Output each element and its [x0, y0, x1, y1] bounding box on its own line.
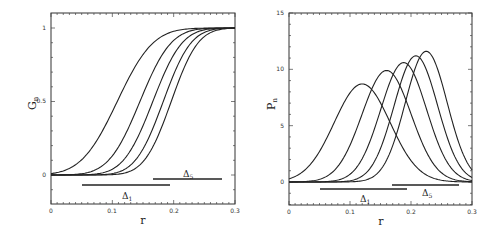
left-ytick-0: 0	[42, 171, 46, 178]
left-curve-4	[51, 28, 235, 175]
right-xtick-0.3: 0.3	[467, 208, 477, 215]
left-curve-5	[51, 28, 235, 175]
right-xtick-0: 0	[287, 208, 291, 215]
left-xtick-0.2: 0.2	[169, 207, 179, 214]
left-delta5-label: Δ5	[183, 169, 194, 180]
right-delta1-label: Δ1	[360, 194, 370, 205]
right-curve-5	[289, 51, 472, 182]
left-curve-2	[51, 28, 235, 175]
left-curve-1	[51, 28, 235, 174]
right-ytick-0: 0	[280, 178, 284, 185]
left-curves	[51, 28, 235, 175]
left-ylabel: Gn	[26, 96, 40, 110]
right-ytick-5: 5	[280, 122, 284, 129]
right-ytick-10: 10	[276, 65, 284, 72]
right-curve-3	[289, 63, 472, 182]
left-ytick-1: 1	[42, 24, 46, 31]
right-ytick-15: 15	[276, 9, 284, 16]
right-xtick-0.2: 0.2	[406, 208, 416, 215]
left-delta1-label: Δ1	[122, 191, 132, 202]
right-delta5-label: Δ5	[422, 188, 433, 199]
left-xtick-0.1: 0.1	[107, 207, 117, 214]
right-ylabel: Pn	[265, 98, 279, 110]
left-panel: Δ1 Δ5 1 0.5 0 0 0.1 0.2 0.3 r Gn	[26, 13, 240, 227]
left-xtick-0.3: 0.3	[230, 207, 240, 214]
figure: Δ1 Δ5 1 0.5 0 0 0.1 0.2 0.3 r Gn Δ1 Δ5 1…	[0, 0, 502, 232]
right-panel: Δ1 Δ5 15 10 5 0 0 0.1 0.2 0.3 r Pn	[265, 9, 477, 228]
right-curve-4	[289, 56, 472, 182]
left-xlabel: r	[140, 214, 146, 227]
right-xlabel: r	[378, 215, 384, 228]
right-curves	[289, 51, 472, 182]
right-xtick-0.1: 0.1	[345, 208, 355, 215]
left-xtick-0: 0	[49, 207, 53, 214]
right-curve-1	[289, 84, 472, 182]
left-curve-3	[51, 28, 235, 175]
right-curve-2	[289, 70, 472, 182]
